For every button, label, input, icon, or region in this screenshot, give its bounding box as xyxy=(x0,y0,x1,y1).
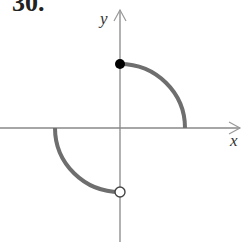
curve-arc-quadrant-1 xyxy=(120,64,185,128)
open-point-marker xyxy=(115,187,125,197)
curve-arc-quadrant-3 xyxy=(55,128,120,192)
closed-point-marker xyxy=(115,59,125,69)
y-axis-label: y xyxy=(98,9,108,28)
graph: y x xyxy=(0,0,244,244)
x-axis-label: x xyxy=(229,131,238,150)
